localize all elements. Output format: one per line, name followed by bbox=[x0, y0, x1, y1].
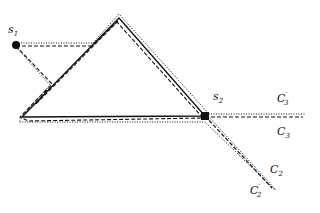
dotted-path bbox=[16, 14, 305, 114]
diagram-canvas: s1 s2 C′3 C3 C2 C′2 bbox=[0, 0, 320, 213]
curve-C2prime-line bbox=[208, 116, 276, 190]
label-C2: C2 bbox=[270, 163, 283, 178]
point-s1 bbox=[12, 41, 20, 49]
dashed-path-left bbox=[16, 22, 203, 121]
label-s1: s1 bbox=[8, 23, 18, 38]
label-C2prime: C′2 bbox=[250, 183, 262, 199]
label-C3prime: C′3 bbox=[277, 91, 289, 107]
label-C3: C3 bbox=[277, 125, 290, 140]
point-s2 bbox=[201, 112, 209, 120]
curve-C2-line bbox=[205, 116, 272, 188]
solid-path bbox=[22, 18, 205, 117]
label-s2: s2 bbox=[213, 90, 224, 105]
